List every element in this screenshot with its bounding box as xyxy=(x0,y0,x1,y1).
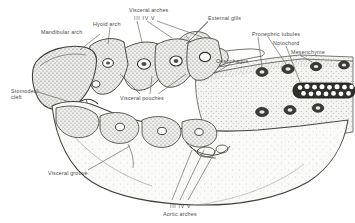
label-mandibular-arch: Mandibular arch xyxy=(41,29,82,35)
label-aortic-arch-numerals: III IV V xyxy=(170,203,191,209)
label-visceral-pouches: Visceral pouches xyxy=(120,95,164,101)
notochord-rod xyxy=(293,83,355,98)
figure-canvas: Mandibular arch Hyoid arch Visceral arch… xyxy=(0,0,355,223)
label-stomodeal-cleft-line2: cleft xyxy=(11,94,22,100)
label-visceral-arch-numerals: III IV V xyxy=(134,15,155,21)
label-hyoid-arch: Hyoid arch xyxy=(93,21,121,27)
label-aortic-arches: Aortic arches xyxy=(163,211,197,217)
label-pronephric-tubules: Pronephric tubules xyxy=(252,31,300,37)
label-visceral-groove: Visceral groove xyxy=(48,170,88,176)
label-mesenchyme: Mesenchyme xyxy=(291,49,325,55)
label-external-gills: External gills xyxy=(208,15,241,21)
label-notochord: Notochord xyxy=(273,40,300,46)
label-visceral-arches: Visceral arches xyxy=(129,7,168,13)
label-oesophagus: Oesophagus xyxy=(216,58,248,64)
